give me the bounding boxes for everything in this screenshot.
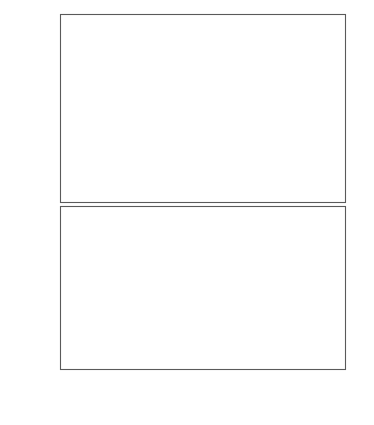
panel-angling-effort bbox=[61, 15, 346, 203]
figure-container bbox=[0, 0, 374, 425]
plot-frame-bottom bbox=[61, 207, 346, 370]
panel-angling-cpue bbox=[61, 207, 346, 370]
plot-frame-top bbox=[61, 15, 346, 203]
scatter-plot-svg bbox=[0, 0, 374, 425]
